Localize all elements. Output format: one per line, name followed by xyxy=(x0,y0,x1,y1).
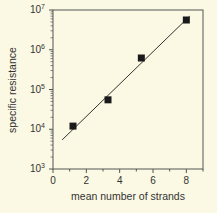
series-layer xyxy=(62,16,190,140)
x-axis-title: mean number of strands xyxy=(71,190,185,202)
y-tick-label: 105 xyxy=(30,83,45,95)
y-tick-label: 104 xyxy=(30,122,45,134)
x-tick-label: 4 xyxy=(117,175,123,186)
x-tick-label: 6 xyxy=(150,175,156,186)
y-axis-ticks: 103104105106107 xyxy=(30,3,53,174)
y-tick-label: 106 xyxy=(30,43,45,55)
data-point-marker xyxy=(183,17,190,24)
y-tick-label: 103 xyxy=(30,162,45,174)
chart: 02468 103104105106107 mean number of str… xyxy=(0,0,217,213)
y-tick-label: 107 xyxy=(30,3,45,15)
x-tick-label: 8 xyxy=(184,175,190,186)
fit-line xyxy=(62,16,190,140)
x-tick-label: 0 xyxy=(50,175,56,186)
data-point-marker xyxy=(105,96,112,103)
data-point-marker xyxy=(138,55,145,62)
x-tick-label: 2 xyxy=(84,175,90,186)
plot-frame xyxy=(53,10,203,169)
y-axis-title: specific resistance xyxy=(6,47,18,133)
x-axis-ticks: 02468 xyxy=(50,169,203,186)
data-point-marker xyxy=(70,123,77,130)
